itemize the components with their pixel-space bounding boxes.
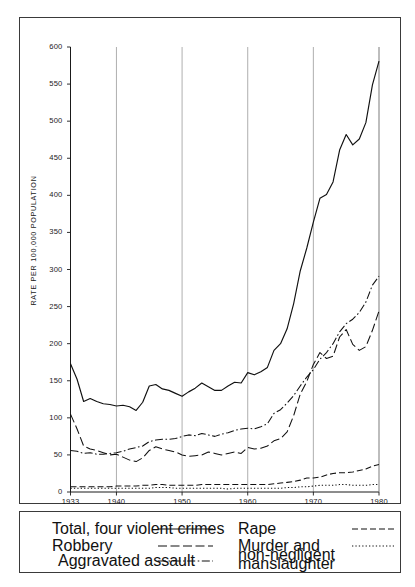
legend-label-0: Total, four violent crimes — [52, 524, 225, 533]
legend-label-2: Aggravated assault — [58, 556, 195, 565]
axis-tick-marks — [67, 47, 379, 496]
vertical-gridlines — [116, 47, 379, 492]
chart-canvas — [0, 0, 415, 587]
legend-label-4: Murder and non-negligent manslaughter — [238, 541, 342, 568]
legend-label-1: Robbery — [52, 541, 112, 550]
chart-page: RATE PER 100,000 POPULATION 050100150200… — [0, 0, 415, 587]
legend-label-3: Rape — [238, 524, 276, 533]
